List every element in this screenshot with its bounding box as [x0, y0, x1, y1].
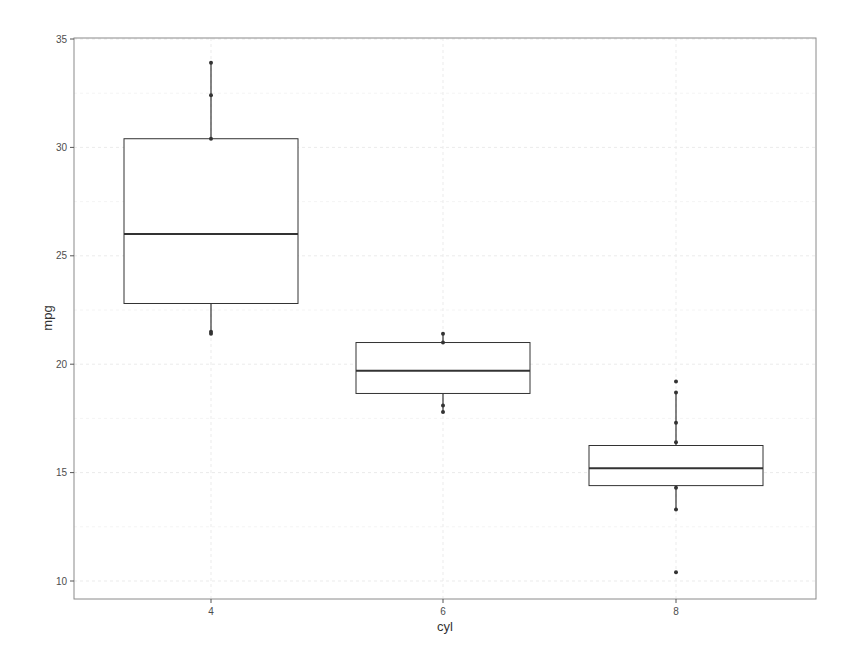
data-point [441, 332, 445, 336]
box-group-cyl-6 [356, 332, 530, 414]
box-group-cyl-8 [589, 380, 763, 575]
data-point [674, 507, 678, 511]
x-tick-label: 8 [673, 606, 679, 617]
boxplot-chart: 101520253035 468 cyl mpg [0, 0, 853, 667]
data-point [441, 403, 445, 407]
data-point [209, 61, 213, 65]
data-point [209, 93, 213, 97]
data-point [674, 440, 678, 444]
data-point [674, 390, 678, 394]
data-point [209, 137, 213, 141]
data-point [441, 341, 445, 345]
x-axis: 468 [208, 599, 679, 617]
x-tick-label: 4 [208, 606, 214, 617]
y-tick-label: 35 [56, 34, 68, 45]
iqr-box [124, 139, 298, 304]
y-tick-label: 30 [56, 142, 68, 153]
data-point [674, 486, 678, 490]
grid-lines [74, 38, 816, 599]
data-point [674, 380, 678, 384]
data-point [674, 570, 678, 574]
x-tick-label: 6 [440, 606, 446, 617]
box-group-cyl-4 [124, 61, 298, 336]
y-tick-label: 20 [56, 359, 68, 370]
y-tick-label: 10 [56, 576, 68, 587]
data-point [441, 410, 445, 414]
iqr-box [356, 343, 530, 394]
y-axis-title: mpg [40, 305, 55, 330]
y-tick-label: 25 [56, 250, 68, 261]
y-tick-label: 15 [56, 467, 68, 478]
data-point [674, 421, 678, 425]
iqr-box [589, 446, 763, 486]
data-point [209, 332, 213, 336]
y-axis: 101520253035 [56, 34, 74, 587]
x-axis-title: cyl [437, 619, 453, 634]
boxes-layer [124, 61, 763, 574]
plot-panel [74, 38, 816, 599]
